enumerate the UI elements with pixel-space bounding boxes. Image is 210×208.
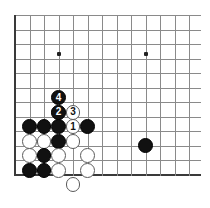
grid-line-horizontal — [15, 30, 201, 31]
stone-move-number: 2 — [52, 106, 65, 119]
white-stone-i[interactable] — [66, 134, 81, 149]
grid-line-vertical — [189, 15, 190, 176]
grid-line-vertical — [102, 15, 103, 176]
grid-line-horizontal — [15, 59, 201, 60]
white-stone-p[interactable] — [51, 163, 66, 178]
black-stone-b[interactable] — [22, 119, 37, 134]
grid-line-horizontal — [15, 102, 201, 103]
white-move-3[interactable]: 3 — [66, 105, 81, 120]
star-point-right — [144, 52, 148, 56]
stone-move-number: 1 — [67, 120, 80, 133]
grid-line-vertical — [14, 15, 16, 176]
black-move-4[interactable]: 4 — [51, 90, 66, 105]
grid-line-horizontal — [15, 15, 201, 16]
black-stone-n[interactable] — [22, 163, 37, 178]
grid-line-horizontal — [15, 117, 201, 118]
grid-line-horizontal — [15, 44, 201, 45]
grid-line-horizontal — [15, 73, 201, 74]
white-stone-g[interactable] — [37, 134, 52, 149]
grid-line-horizontal — [15, 88, 201, 89]
stone-move-number: 3 — [67, 106, 80, 119]
white-stone-f[interactable] — [22, 134, 37, 149]
white-stone-r[interactable] — [66, 177, 81, 192]
grid-line-vertical — [117, 15, 118, 176]
grid-line-vertical — [175, 15, 176, 176]
stone-move-number: 4 — [52, 91, 65, 104]
go-board-diagram: 4231 — [0, 0, 210, 208]
white-stone-j[interactable] — [22, 148, 37, 163]
black-stone-d[interactable] — [51, 119, 66, 134]
grid-line-vertical — [73, 15, 74, 176]
grid-line-vertical — [160, 15, 161, 176]
white-stone-q[interactable] — [80, 163, 95, 178]
grid-line-vertical — [131, 15, 132, 176]
white-stone-m[interactable] — [80, 148, 95, 163]
black-stone-o[interactable] — [37, 163, 52, 178]
black-stone-h[interactable] — [51, 134, 66, 149]
black-stone-lone[interactable] — [138, 138, 153, 153]
black-move-2[interactable]: 2 — [51, 105, 66, 120]
star-point-left — [57, 52, 61, 56]
black-stone-e[interactable] — [80, 119, 95, 134]
white-stone-l[interactable] — [51, 148, 66, 163]
white-move-1[interactable]: 1 — [66, 119, 81, 134]
